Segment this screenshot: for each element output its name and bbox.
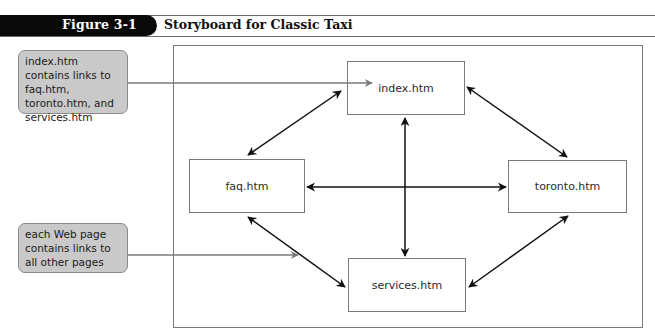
callout-all-links: each Web page contains links to all othe… bbox=[18, 223, 128, 273]
arrow-index-toronto bbox=[467, 87, 567, 157]
arrow-faq-services bbox=[248, 217, 345, 287]
arrow-index-faq bbox=[248, 91, 341, 155]
arrow-toronto-services bbox=[469, 216, 568, 287]
callout-index-links: index.htm contains links to faq.htm, tor… bbox=[18, 50, 128, 114]
callout-all-links-text: each Web page contains links to all othe… bbox=[25, 228, 111, 268]
callout-index-links-text: index.htm contains links to faq.htm, tor… bbox=[25, 55, 114, 123]
